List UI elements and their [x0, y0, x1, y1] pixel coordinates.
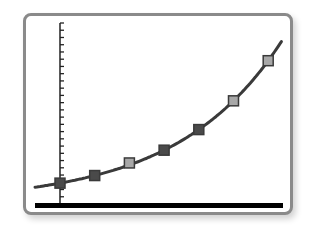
exponential-chart: [0, 0, 315, 228]
data-point-marker: [263, 56, 273, 66]
data-markers: [55, 56, 273, 188]
data-point-marker: [55, 178, 65, 188]
data-point-marker: [159, 145, 169, 155]
data-point-marker: [90, 171, 100, 181]
x-axis-baseline: [35, 203, 283, 208]
fit-curve: [35, 42, 281, 188]
data-point-marker: [194, 125, 204, 135]
data-point-marker: [229, 96, 239, 106]
data-point-marker: [124, 158, 134, 168]
